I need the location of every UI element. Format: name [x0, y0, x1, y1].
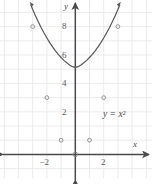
curve-equation-label: y = x²: [103, 110, 125, 120]
x-tick-label-minus-2: −2: [40, 158, 50, 167]
y-tick-label-2: 2: [62, 108, 67, 117]
coordinate-plane: [0, 0, 152, 184]
y-axis-label: y: [64, 2, 68, 11]
x-axis-label: x: [133, 140, 137, 149]
y-tick-label-6: 6: [62, 51, 67, 60]
parabola-graph-figure: 8 6 4 2 −2 2 y x y = x²: [0, 0, 152, 184]
axis-lines: [3, 3, 149, 180]
y-tick-label-8: 8: [62, 22, 67, 31]
x-tick-label-2: 2: [101, 158, 106, 167]
y-tick-label-4: 4: [62, 79, 67, 88]
